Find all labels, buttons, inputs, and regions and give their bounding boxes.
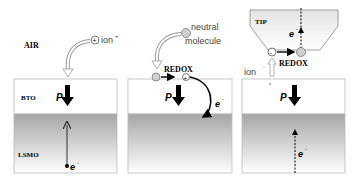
electron-dot xyxy=(65,164,69,168)
polarization-label: P xyxy=(280,92,287,103)
molecule-at-surface-icon xyxy=(152,73,160,81)
ion-label: ion xyxy=(244,67,256,77)
electron-label: e xyxy=(215,99,220,109)
neutral-label: neutral xyxy=(191,22,219,32)
neutral-product-icon xyxy=(297,48,306,57)
adsorption-arrow-icon xyxy=(157,34,181,62)
electron-label: e xyxy=(70,162,75,172)
ion-charge: + xyxy=(115,33,119,39)
dot xyxy=(269,83,271,85)
panel-1: AIR BTO LSMO + ion + P e - xyxy=(14,33,119,173)
panel-3: TIP e - - REDOX ion - P e - xyxy=(242,8,345,173)
tip-label: TIP xyxy=(255,18,267,26)
air-label: AIR xyxy=(24,41,39,50)
plus-sign: + xyxy=(92,37,96,44)
adsorption-arrow-icon xyxy=(68,41,90,70)
lsmo-layer xyxy=(242,114,345,173)
redox-label: REDOX xyxy=(164,65,193,74)
diagram: AIR BTO LSMO + ion + P e - neutral molec… xyxy=(0,0,356,182)
lsmo-layer xyxy=(128,114,232,173)
tip-electron-label: e xyxy=(289,29,294,39)
ion-label: ion xyxy=(101,35,113,45)
substrate-electron-label: e xyxy=(298,149,303,159)
bto-label: BTO xyxy=(21,94,36,102)
svg-text:+: + xyxy=(184,75,188,81)
ion-adsorption-arrow-icon xyxy=(268,58,276,76)
lsmo-layer xyxy=(14,114,117,173)
molecule-label: molecule xyxy=(185,36,221,46)
svg-text:-: - xyxy=(263,64,265,70)
polarization-label: P xyxy=(165,92,172,103)
lsmo-label: LSMO xyxy=(18,151,39,159)
redox-label: REDOX xyxy=(279,59,308,68)
panel-2: neutral molecule REDOX + e - P xyxy=(128,22,232,173)
